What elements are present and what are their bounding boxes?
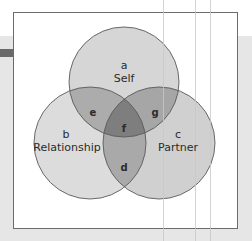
guide-line: [195, 0, 196, 241]
label-f: f: [122, 123, 126, 135]
label-g: g: [151, 107, 158, 119]
label-e: e: [90, 107, 97, 119]
label-b: b: [63, 129, 70, 141]
label-d: d: [120, 162, 127, 174]
guide-line: [163, 0, 164, 241]
guide-line: [210, 0, 211, 241]
label-c: c: [175, 129, 181, 141]
venn-diagram: [0, 0, 252, 241]
label-partner: Partner: [158, 142, 198, 154]
label-a: a: [121, 60, 128, 72]
label-relationship: Relationship: [33, 142, 101, 154]
label-self: Self: [114, 73, 135, 85]
